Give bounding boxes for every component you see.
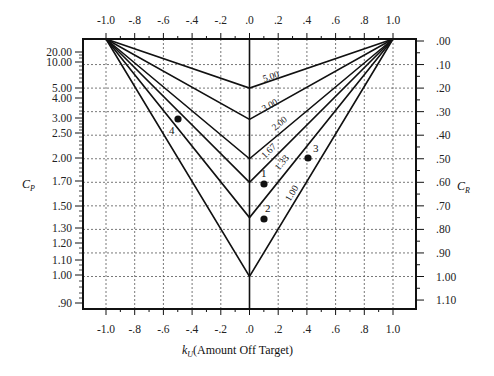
x-tick-label-top: -1.0 (97, 14, 115, 26)
x-tick-label-bottom: -.4 (186, 323, 199, 335)
y-left-tick-label: 2.50 (52, 127, 72, 139)
x-tick-label-top: .6 (331, 14, 340, 26)
x-tick-label-top: 1.0 (386, 14, 401, 26)
y-right-axis-title: CR (457, 179, 470, 195)
x-tick-label-bottom: .6 (331, 323, 340, 335)
x-tick-label-bottom: -.2 (215, 323, 228, 335)
data-point-label: 2 (265, 202, 271, 214)
x-tick-label-top: .2 (274, 14, 283, 26)
y-left-tick-label: 3.00 (52, 112, 72, 124)
data-point-3 (304, 154, 311, 161)
y-right-tick-label: .10 (436, 59, 451, 71)
y-left-tick-label: 2.00 (52, 152, 72, 164)
y-left-tick-label: .90 (58, 297, 73, 309)
capability-chart: -1.0-1.0-.8-.8-.6-.6-.4-.4-.2-.2.0.0.2.2… (0, 0, 494, 376)
y-left-tick-label: 1.50 (52, 200, 72, 212)
y-left-tick-label: 1.70 (52, 175, 72, 187)
y-right-tick-label: .30 (436, 106, 451, 118)
x-tick-label-top: -.2 (215, 14, 228, 26)
y-left-tick-label: 1.20 (52, 237, 72, 249)
y-right-tick-label: 1.10 (436, 294, 456, 306)
tick-labels: -1.0-1.0-.8-.8-.6-.6-.4-.4-.2-.2.0.0.2.2… (46, 14, 456, 335)
data-point-2 (260, 215, 267, 222)
data-point-4 (174, 115, 181, 122)
x-tick-label-bottom: .8 (360, 323, 369, 335)
y-left-tick-label: 1.30 (52, 222, 72, 234)
x-tick-label-bottom: 1.0 (386, 323, 401, 335)
line-label: 5.00 (261, 69, 280, 84)
y-right-tick-label: .90 (436, 247, 451, 259)
line-label: 3.00 (260, 97, 280, 114)
x-tick-label-bottom: .4 (303, 323, 312, 335)
x-tick-label-top: .4 (303, 14, 312, 26)
x-tick-label-bottom: -.6 (157, 323, 170, 335)
x-tick-label-top: -.8 (128, 14, 141, 26)
y-right-tick-label: .70 (436, 200, 451, 212)
y-right-tick-label: .00 (436, 35, 451, 47)
y-left-tick-label: 4.00 (52, 92, 72, 104)
x-tick-label-bottom: -1.0 (97, 323, 115, 335)
y-left-tick-label: 1.00 (52, 269, 72, 281)
line-label: 1.67 (259, 141, 278, 160)
y-right-tick-label: .40 (436, 129, 451, 141)
y-left-tick-label: 1.10 (52, 254, 72, 266)
y-right-tick-label: .50 (436, 153, 451, 165)
y-left-axis-title: CP (22, 177, 35, 193)
y-right-tick-label: .60 (436, 176, 451, 188)
x-tick-label-bottom: .0 (245, 323, 254, 335)
data-points: 1234 (169, 115, 319, 222)
y-right-tick-label: .20 (436, 82, 451, 94)
x-tick-label-bottom: .2 (274, 323, 283, 335)
data-point-label: 4 (169, 124, 175, 136)
x-axis-title: kU(Amount Off Target) (182, 343, 293, 359)
y-left-tick-label: 10.00 (46, 56, 72, 68)
x-tick-label-top: -.6 (157, 14, 170, 26)
y-right-tick-label: .80 (436, 223, 451, 235)
y-right-tick-label: 1.00 (436, 271, 456, 283)
x-tick-label-top: .0 (245, 14, 254, 26)
x-tick-label-top: .8 (360, 14, 369, 26)
x-tick-label-bottom: -.8 (128, 323, 141, 335)
line-label: 2.00 (270, 114, 289, 132)
data-point-label: 1 (261, 167, 267, 179)
line-label: 1.00 (283, 183, 300, 203)
data-point-1 (260, 180, 267, 187)
data-point-label: 3 (313, 142, 319, 154)
x-tick-label-top: -.4 (186, 14, 199, 26)
